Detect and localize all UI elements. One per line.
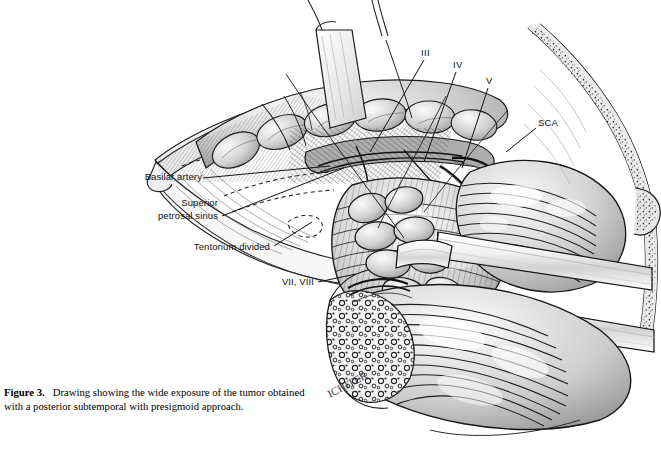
retractor-blade-center — [396, 240, 452, 268]
label-superior-petrosal-sinus-line2: petrosal sinus — [110, 210, 218, 222]
label-tentorium-divided: Tentorium divided — [176, 241, 270, 253]
label-cranial-nerve-iii: III — [421, 47, 441, 59]
label-basilar-artery: Basilar artery — [124, 171, 202, 183]
label-cranial-nerve-vii-viii: VII, VIII — [256, 276, 314, 288]
label-sca: SCA — [538, 117, 570, 129]
figure-page: ICHITER Basi — [0, 0, 661, 452]
figure-caption: Figure 3. Drawing showing the wide expos… — [4, 385, 314, 413]
label-cranial-nerve-iv: IV — [453, 59, 475, 71]
figure-number: Figure 3. — [4, 386, 45, 398]
label-cranial-nerve-v: V — [486, 75, 504, 87]
label-superior-petrosal-sinus-line1: Superior — [110, 197, 218, 209]
